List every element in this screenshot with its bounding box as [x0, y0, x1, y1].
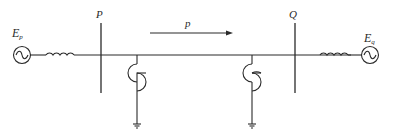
- label-Eq: Eq: [363, 31, 375, 46]
- label-Ep: Ep: [11, 26, 23, 41]
- label-power-flow: p: [184, 17, 191, 29]
- inductor-left-icon: [46, 53, 74, 55]
- shunt-compensator-left-icon: [128, 55, 146, 124]
- power-flow-arrow-icon: [150, 31, 233, 36]
- label-bus-P: P: [95, 8, 103, 20]
- ground-right-icon: [248, 124, 256, 128]
- ac-source-right-icon: [362, 47, 379, 64]
- ground-left-icon: [133, 124, 141, 128]
- label-bus-Q: Q: [289, 8, 297, 20]
- single-line-diagram: Ep P Q p: [0, 0, 393, 136]
- shunt-compensator-right-icon: [243, 55, 261, 124]
- ac-source-left-icon: [14, 47, 31, 64]
